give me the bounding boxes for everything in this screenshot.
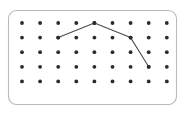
- board-frame: [9, 11, 177, 105]
- geoboard-svg: [0, 0, 185, 114]
- peg-dot[interactable]: [74, 21, 78, 25]
- peg-dot[interactable]: [56, 65, 60, 69]
- peg-dot[interactable]: [56, 50, 60, 54]
- peg-dot[interactable]: [93, 50, 97, 54]
- peg-dot[interactable]: [74, 80, 78, 84]
- peg-dot[interactable]: [20, 36, 24, 40]
- peg-dot[interactable]: [147, 80, 151, 84]
- peg-dot[interactable]: [129, 21, 133, 25]
- peg-dot[interactable]: [165, 36, 169, 40]
- peg-dot[interactable]: [111, 50, 115, 54]
- peg-dot[interactable]: [56, 21, 60, 25]
- peg-dot[interactable]: [111, 21, 115, 25]
- peg-dot[interactable]: [20, 50, 24, 54]
- peg-dot[interactable]: [93, 65, 97, 69]
- peg-dot[interactable]: [165, 80, 169, 84]
- peg-dot[interactable]: [147, 36, 151, 40]
- peg-dot[interactable]: [74, 65, 78, 69]
- path-vertex-end[interactable]: [147, 65, 151, 69]
- peg-dot[interactable]: [56, 80, 60, 84]
- peg-dot[interactable]: [165, 50, 169, 54]
- peg-dot[interactable]: [129, 50, 133, 54]
- peg-dot[interactable]: [147, 50, 151, 54]
- peg-dot[interactable]: [38, 80, 42, 84]
- peg-dot[interactable]: [165, 21, 169, 25]
- peg-dot[interactable]: [38, 21, 42, 25]
- path-vertex-peak[interactable]: [93, 21, 97, 25]
- peg-dot[interactable]: [147, 21, 151, 25]
- path-vertex-bend[interactable]: [129, 36, 133, 40]
- peg-dot[interactable]: [20, 80, 24, 84]
- peg-dot[interactable]: [74, 36, 78, 40]
- peg-dot[interactable]: [165, 65, 169, 69]
- peg-dot[interactable]: [111, 65, 115, 69]
- peg-dot[interactable]: [38, 50, 42, 54]
- peg-dot[interactable]: [93, 80, 97, 84]
- peg-dot[interactable]: [129, 65, 133, 69]
- figure-root: [0, 0, 185, 114]
- peg-dot[interactable]: [20, 21, 24, 25]
- peg-dot[interactable]: [111, 80, 115, 84]
- peg-dot[interactable]: [38, 65, 42, 69]
- peg-dot[interactable]: [93, 36, 97, 40]
- peg-dot[interactable]: [111, 36, 115, 40]
- peg-dot[interactable]: [38, 36, 42, 40]
- peg-dot[interactable]: [129, 80, 133, 84]
- peg-dot[interactable]: [20, 65, 24, 69]
- peg-dot[interactable]: [74, 50, 78, 54]
- path-vertex-start[interactable]: [56, 36, 60, 40]
